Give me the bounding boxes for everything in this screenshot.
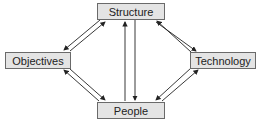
node-technology: Technology <box>190 52 256 69</box>
node-label: Objectives <box>12 55 63 67</box>
node-objectives: Objectives <box>5 52 71 69</box>
node-label: People <box>114 105 148 117</box>
arrow-technology-to-structure <box>157 21 191 52</box>
arrow-structure-to-objectives <box>64 20 100 50</box>
arrow-technology-to-people <box>156 68 191 100</box>
node-people: People <box>97 102 165 119</box>
arrow-people-to-objectives <box>64 70 99 101</box>
arrow-people-to-technology <box>162 70 198 101</box>
arrow-objectives-to-structure <box>70 22 105 51</box>
arrow-structure-to-technology <box>156 22 196 51</box>
arrow-objectives-to-people <box>70 69 105 100</box>
node-label: Structure <box>109 6 154 18</box>
node-structure: Structure <box>97 3 165 20</box>
node-label: Technology <box>195 55 251 67</box>
